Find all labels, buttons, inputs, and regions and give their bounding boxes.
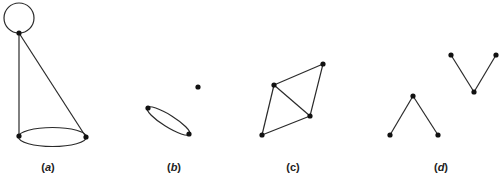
diagonal-edge [274, 85, 310, 116]
panel-c: (c) [259, 61, 325, 173]
panel-label-a: (a) [41, 161, 55, 173]
vertex [320, 61, 325, 66]
edge [310, 64, 323, 116]
vertex [16, 30, 21, 35]
edge [262, 85, 274, 135]
edge [474, 55, 496, 92]
isolated-vertex [195, 84, 200, 89]
vertex [387, 132, 392, 137]
panel-b: (b) [144, 84, 200, 173]
vertex [448, 52, 453, 57]
edge [19, 33, 86, 137]
vertex [493, 52, 498, 57]
double-edge [144, 103, 193, 140]
edge [413, 96, 438, 135]
edge [262, 116, 310, 135]
panel-label-d: (d) [434, 161, 448, 173]
vertex [307, 113, 312, 118]
vertex [16, 133, 21, 138]
edge [274, 64, 323, 85]
double-edge [19, 128, 87, 147]
panel-label-c: (c) [286, 161, 300, 173]
graph-figure: (a) (b) (c) (d) [0, 0, 499, 183]
panel-d: (d) [387, 52, 498, 173]
vertex [410, 93, 415, 98]
vertex [471, 89, 476, 94]
vertex [145, 105, 150, 110]
vertex [186, 131, 191, 136]
panel-label-b: (b) [167, 161, 181, 173]
vertex [83, 134, 88, 139]
loop-edge [4, 3, 34, 33]
vertex [271, 82, 276, 87]
edge [390, 96, 413, 135]
vertex [259, 132, 264, 137]
panel-a: (a) [4, 3, 89, 173]
edge [451, 55, 474, 92]
vertex [435, 132, 440, 137]
